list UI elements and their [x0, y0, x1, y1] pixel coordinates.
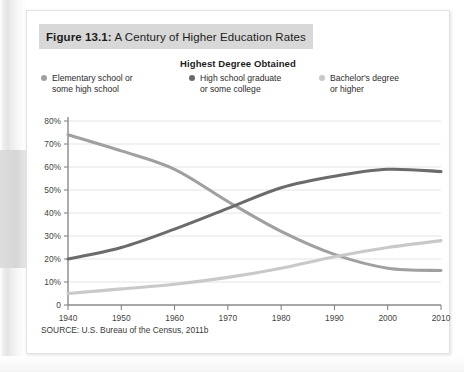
legend-swatch-highschool	[189, 75, 195, 81]
legend-item-highschool[interactable]: High school graduate or some college	[189, 73, 319, 95]
y-axis-label: 30%	[44, 231, 61, 241]
legend-item-bachelors[interactable]: Bachelor's degree or higher	[319, 73, 431, 95]
y-axis-label: 10%	[44, 277, 61, 287]
x-axis-label: 1960	[165, 313, 184, 323]
legend-label-bachelors: Bachelor's degree or higher	[330, 73, 399, 95]
y-axis-label: 20%	[44, 254, 61, 264]
source-note: SOURCE: U.S. Bureau of the Census, 2011b	[41, 325, 208, 335]
y-axis-label: 0	[56, 300, 61, 310]
chart-plot-area: 010%20%30%40%50%60%70%80%194019501960197…	[27, 107, 451, 322]
line-chart: 010%20%30%40%50%60%70%80%194019501960197…	[27, 107, 451, 322]
figure-card: Figure 13.1: A Century of Higher Educati…	[26, 10, 450, 354]
x-axis-label: 1970	[219, 313, 238, 323]
legend-label-elementary: Elementary school or some high school	[52, 73, 133, 95]
x-axis-label: 2010	[432, 313, 451, 323]
page-title: Figure 13.1: A Century of Higher Educati…	[46, 31, 306, 43]
y-axis-label: 80%	[44, 116, 61, 126]
x-axis-label: 1990	[325, 313, 344, 323]
y-axis-label: 60%	[44, 162, 61, 172]
y-axis-label: 70%	[44, 139, 61, 149]
data-series-line-0	[68, 135, 441, 271]
y-axis-label: 40%	[44, 208, 61, 218]
data-series-line-1	[68, 169, 441, 259]
figure-title-text: A Century of Higher Education Rates	[114, 31, 305, 43]
legend-title: Highest Degree Obtained	[27, 58, 449, 69]
x-axis-label: 2000	[378, 313, 397, 323]
x-axis-label: 1950	[112, 313, 131, 323]
legend-label-highschool: High school graduate or some college	[200, 73, 281, 95]
figure-number: Figure 13.1:	[46, 31, 112, 43]
x-axis-label: 1940	[59, 313, 78, 323]
figure-page: Figure 13.1: A Century of Higher Educati…	[0, 0, 464, 372]
page-edge-bottom	[0, 356, 464, 372]
y-axis-label: 50%	[44, 185, 61, 195]
legend-swatch-bachelors	[319, 75, 325, 81]
legend-swatch-elementary	[41, 75, 47, 81]
figure-title-band: Figure 13.1: A Century of Higher Educati…	[39, 24, 313, 49]
x-axis-label: 1980	[272, 313, 291, 323]
chart-legend: Elementary school or some high school Hi…	[41, 73, 437, 95]
legend-item-elementary[interactable]: Elementary school or some high school	[41, 73, 189, 95]
